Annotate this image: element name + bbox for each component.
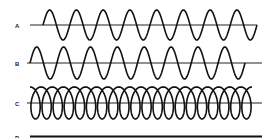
waveform-diagram: A B C D [0, 0, 274, 138]
label-c: C [15, 101, 20, 107]
label-d: D [15, 135, 20, 138]
label-b: B [15, 61, 20, 67]
trace-d: D [15, 135, 262, 138]
trace-c: C [15, 87, 262, 119]
label-a: A [15, 23, 20, 29]
trace-a: A [15, 10, 257, 40]
trace-b: B [15, 47, 262, 79]
